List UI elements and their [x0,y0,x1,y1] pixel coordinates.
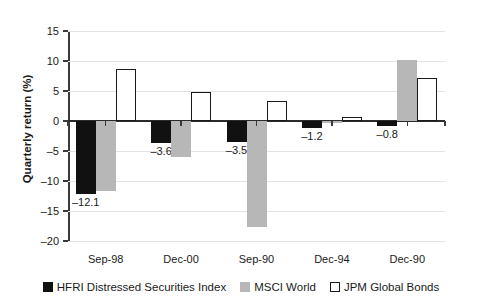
black-square-icon [43,282,53,292]
legend-item-label: HFRI Distressed Securities Index [57,281,226,293]
bar-group: –3.6 [151,31,211,241]
gridline [68,241,445,242]
y-axis-tick [63,90,68,91]
bar-group: –0.8 [377,31,437,241]
bar-value-label: –1.2 [289,130,335,142]
bar[interactable] [342,117,362,121]
bar-group: –1.2 [302,31,362,241]
bar[interactable] [397,60,417,121]
bar[interactable] [171,121,191,157]
y-axis-tick [63,60,68,61]
bar[interactable] [247,121,267,227]
bar[interactable] [116,69,136,121]
bar[interactable] [151,121,171,143]
x-axis-tick [331,121,332,126]
bar-group: –3.5 [227,31,287,241]
y-axis-line [68,31,70,241]
y-axis-tick-label: –5 [47,145,59,157]
y-axis-tick [63,240,68,241]
y-axis-title: Quarterly return (%) [21,44,33,214]
legend-item[interactable]: HFRI Distressed Securities Index [43,281,226,293]
x-axis-category-label: Dec-94 [314,253,349,265]
plot-area: 151050–5–10–15–20–12.1Sep-98–3.6Dec-00–3… [68,31,445,241]
bar[interactable] [191,92,211,121]
x-axis-category-label: Sep-90 [239,253,274,265]
bar-group: –12.1 [76,31,136,241]
bar[interactable] [302,121,322,128]
x-axis-tick [180,121,181,126]
y-axis-tick [63,180,68,181]
bar[interactable] [76,121,96,194]
legend-item[interactable]: MSCI World [240,281,316,293]
chart-legend: HFRI Distressed Securities IndexMSCI Wor… [0,281,482,293]
x-axis-category-label: Sep-98 [88,253,123,265]
legend-item-label: MSCI World [254,281,316,293]
x-axis-tick [444,121,445,126]
y-axis-tick-label: –15 [41,205,59,217]
bar[interactable] [267,101,287,121]
y-axis-tick-label: –10 [41,175,59,187]
y-axis-tick [63,150,68,151]
y-axis-tick [63,30,68,31]
white-square-icon [330,282,340,292]
bar-value-label: –0.8 [364,128,410,140]
y-axis-tick-label: –20 [41,235,59,247]
x-axis-category-label: Dec-00 [163,253,198,265]
legend-item[interactable]: JPM Global Bonds [330,281,439,293]
bar[interactable] [227,121,247,142]
bar[interactable] [417,78,437,121]
x-axis-tick [407,121,408,126]
y-axis-tick-label: 15 [47,25,59,37]
bar-value-label: –12.1 [63,196,109,208]
x-axis-tick [67,121,68,126]
gray-square-icon [240,282,250,292]
bar[interactable] [377,121,397,126]
y-axis-tick-label: 0 [53,115,59,127]
x-axis-category-label: Dec-90 [390,253,425,265]
y-axis-tick-label: 10 [47,55,59,67]
x-axis-tick [256,121,257,126]
legend-item-label: JPM Global Bonds [344,281,439,293]
x-axis-tick [105,121,106,126]
quarterly-return-bar-chart: Quarterly return (%) 151050–5–10–15–20–1… [0,0,482,297]
y-axis-tick-label: 5 [53,85,59,97]
y-axis-tick [63,210,68,211]
bar[interactable] [96,121,116,191]
